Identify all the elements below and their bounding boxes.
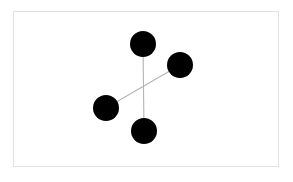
graph-canvas (0, 0, 293, 182)
graph-node[interactable] (167, 52, 193, 78)
graph-node[interactable] (131, 118, 157, 144)
figure-root (0, 0, 293, 182)
graph-node[interactable] (130, 31, 156, 57)
graph-node[interactable] (93, 95, 119, 121)
